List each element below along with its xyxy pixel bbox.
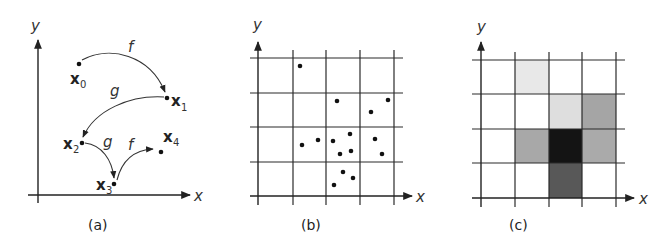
cell-r2-c2 bbox=[549, 129, 582, 163]
y-axis-label: y bbox=[30, 17, 41, 35]
point-x4 bbox=[159, 150, 164, 155]
map-label-f: f bbox=[128, 38, 136, 56]
svg-text:x: x bbox=[171, 92, 181, 110]
label-x4: x 4 bbox=[163, 128, 179, 148]
map-f-x0-x1 bbox=[82, 53, 165, 92]
cell-r3-c2 bbox=[549, 163, 582, 198]
point-x2 bbox=[80, 141, 85, 146]
svg-text:0: 0 bbox=[80, 79, 86, 90]
svg-text:1: 1 bbox=[181, 102, 187, 113]
map-label-g: g bbox=[110, 82, 120, 100]
cell-r0-c1 bbox=[515, 60, 549, 94]
label-x2: x 2 bbox=[63, 135, 79, 155]
figure: y x f g g f x 0 x 1 x 2 x 3 bbox=[0, 0, 670, 244]
svg-text:2: 2 bbox=[73, 144, 79, 155]
svg-text:x: x bbox=[63, 135, 73, 153]
point-x0 bbox=[77, 62, 82, 67]
caption-c: (c) bbox=[509, 217, 528, 233]
x-axis-label: x bbox=[193, 187, 203, 205]
svg-text:x: x bbox=[96, 176, 106, 194]
point-x1 bbox=[165, 96, 170, 101]
y-axis-label: y bbox=[476, 18, 487, 36]
point-x3 bbox=[112, 182, 117, 187]
svg-text:x: x bbox=[70, 70, 80, 88]
label-x3: x 3 bbox=[96, 176, 112, 196]
caption-b: (b) bbox=[301, 217, 321, 233]
y-axis-label: y bbox=[252, 16, 263, 34]
cell-r2-c1 bbox=[515, 129, 549, 163]
svg-text:4: 4 bbox=[173, 137, 179, 148]
cell-r2-c3 bbox=[582, 129, 616, 163]
x-axis-label: x bbox=[638, 190, 648, 208]
map-f-x3-x4 bbox=[117, 149, 153, 180]
label-x1: x 1 bbox=[171, 92, 187, 113]
panel-b: y x (b) bbox=[250, 16, 425, 233]
cell-r1-c2 bbox=[549, 94, 582, 129]
svg-text:3: 3 bbox=[106, 185, 112, 196]
map-label-g: g bbox=[103, 133, 113, 151]
cell-r1-c3 bbox=[582, 94, 616, 129]
panel-c: y x (c) bbox=[472, 18, 648, 233]
map-label-f: f bbox=[128, 136, 136, 154]
x-axis-label: x bbox=[415, 188, 425, 206]
panel-a: y x f g g f x 0 x 1 x 2 x 3 bbox=[28, 17, 203, 233]
svg-text:x: x bbox=[163, 128, 173, 146]
scatter-points bbox=[298, 64, 391, 188]
map-g-x1-x2 bbox=[83, 97, 164, 137]
label-x0: x 0 bbox=[70, 70, 86, 90]
caption-a: (a) bbox=[88, 217, 108, 233]
